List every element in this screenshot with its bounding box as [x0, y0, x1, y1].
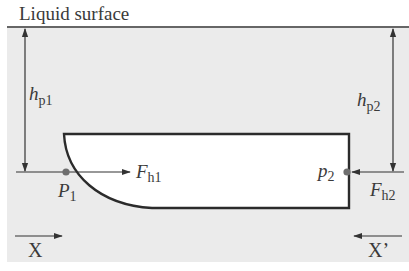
- fluid-pressure-diagram: Liquid surface hp1 hp2 Fh1 P1 Fh2 p2 X X…: [0, 0, 409, 271]
- p2-point: [343, 168, 350, 175]
- x-label: X: [28, 239, 43, 261]
- x-prime-label: X’: [368, 239, 389, 261]
- liquid-surface-label: Liquid surface: [19, 3, 129, 24]
- submerged-body: [64, 134, 349, 208]
- p1-point: [62, 168, 69, 175]
